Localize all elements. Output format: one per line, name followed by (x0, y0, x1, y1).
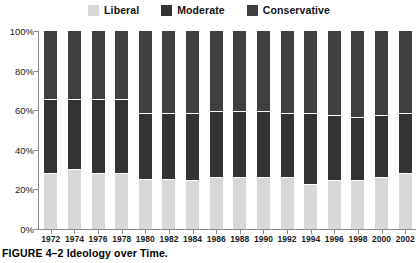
bar-segment-conservative (281, 31, 294, 113)
bar-segment-moderate (92, 100, 105, 172)
bar-segment-conservative (92, 31, 105, 99)
bar-segment-conservative (351, 31, 364, 117)
bar-segment-moderate (399, 114, 412, 172)
y-axis-tick-mark (34, 189, 39, 190)
y-axis-tick-label: 20% (0, 185, 34, 194)
bar-segment-liberal (139, 180, 152, 230)
bar-2000 (375, 31, 388, 229)
bar-2002 (399, 31, 412, 229)
bar-segment-liberal (186, 181, 199, 229)
legend-label-liberal: Liberal (104, 5, 139, 16)
bar-segment-moderate (68, 100, 81, 168)
bar-segment-liberal (162, 180, 175, 230)
bar-segment-moderate (351, 118, 364, 180)
bar-segment-conservative (186, 31, 199, 113)
bar-segment-moderate (186, 114, 199, 180)
legend-swatch-liberal (88, 5, 99, 16)
bar-segment-moderate (233, 112, 246, 176)
bar-segment-moderate (304, 114, 317, 184)
bar-segment-liberal (328, 181, 341, 229)
bar-1996 (328, 31, 341, 229)
bar-1980 (139, 31, 152, 229)
bar-segment-moderate (375, 116, 388, 176)
bar-segment-liberal (233, 178, 246, 229)
bar-1972 (44, 31, 57, 229)
y-axis-tick-mark (34, 110, 39, 111)
bar-segment-moderate (328, 116, 341, 180)
bar-1978 (115, 31, 128, 229)
bar-segment-liberal (399, 174, 412, 229)
y-axis-tick-label: 80% (0, 67, 34, 76)
bar-segment-liberal (257, 178, 270, 229)
y-axis-tick-mark (34, 71, 39, 72)
bar-segment-liberal (92, 174, 105, 229)
bar-segment-conservative (44, 31, 57, 99)
y-axis-labels: 0%20%40%60%80%100% (0, 31, 34, 230)
bar-1988 (233, 31, 246, 229)
bar-segment-conservative (68, 31, 81, 99)
bar-1986 (210, 31, 223, 229)
y-axis-tick-label: 0% (0, 225, 34, 234)
y-axis-tick-mark (34, 31, 39, 32)
bar-segment-moderate (257, 112, 270, 176)
bar-segment-liberal (68, 170, 81, 229)
bar-1998 (351, 31, 364, 229)
bar-segment-liberal (375, 178, 388, 229)
bar-segment-conservative (399, 31, 412, 113)
bar-1990 (257, 31, 270, 229)
y-axis-tick-label: 40% (0, 146, 34, 155)
y-axis-tick-label: 60% (0, 106, 34, 115)
legend-label-moderate: Moderate (177, 5, 224, 16)
legend-item-liberal: Liberal (88, 5, 139, 16)
bar-segment-liberal (281, 178, 294, 229)
legend-item-moderate: Moderate (161, 5, 224, 16)
bar-segment-conservative (375, 31, 388, 115)
bar-1994 (304, 31, 317, 229)
bar-segment-moderate (44, 100, 57, 172)
bar-1976 (92, 31, 105, 229)
bar-segment-liberal (44, 174, 57, 229)
bar-segment-conservative (304, 31, 317, 113)
bar-segment-moderate (115, 100, 128, 172)
legend-label-conservative: Conservative (263, 5, 330, 16)
legend-swatch-conservative (247, 5, 258, 16)
bar-segment-conservative (139, 31, 152, 113)
bar-segment-moderate (139, 114, 152, 178)
y-axis-tick-label: 100% (0, 27, 34, 36)
bar-segment-liberal (304, 185, 317, 229)
bar-segment-conservative (210, 31, 223, 111)
bar-segment-conservative (162, 31, 175, 113)
legend-swatch-moderate (161, 5, 172, 16)
y-axis-tick-mark (34, 150, 39, 151)
bar-1984 (186, 31, 199, 229)
bar-segment-moderate (281, 114, 294, 176)
bar-segment-conservative (115, 31, 128, 99)
bar-1974 (68, 31, 81, 229)
figure-ideology-over-time: Liberal Moderate Conservative 0%20%40%60… (0, 0, 418, 263)
chart-legend: Liberal Moderate Conservative (0, 2, 418, 18)
x-axis-labels: 1972197419761978198019821984198619881990… (0, 234, 418, 246)
bar-segment-liberal (210, 178, 223, 229)
figure-caption: FIGURE 4–2 Ideology over Time. (2, 246, 416, 261)
bar-segment-conservative (328, 31, 341, 115)
bar-1982 (162, 31, 175, 229)
bar-segment-moderate (162, 114, 175, 178)
plot-area (38, 31, 416, 229)
bar-segment-liberal (115, 174, 128, 229)
y-axis-line (38, 31, 39, 230)
bar-segment-liberal (351, 181, 364, 229)
bar-segment-moderate (210, 112, 223, 176)
bar-1992 (281, 31, 294, 229)
bar-segment-conservative (257, 31, 270, 111)
legend-item-conservative: Conservative (247, 5, 330, 16)
bar-segment-conservative (233, 31, 246, 111)
x-axis-label-2002: 2002 (390, 234, 418, 244)
